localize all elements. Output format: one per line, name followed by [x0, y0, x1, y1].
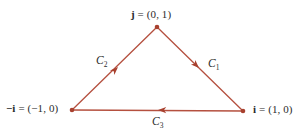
vertex-label-left-value: = (−1, 0) [16, 102, 59, 114]
edge-c1-line [157, 27, 243, 111]
direction-arrowheads [110, 60, 201, 113]
edge-label-c1: C1 [208, 58, 219, 70]
edge-label-c1-subscript: 1 [216, 63, 220, 72]
vertex-label-right-value: = (1, 0) [256, 103, 292, 115]
edge-label-c1-base: C [208, 57, 216, 69]
edge-label-c3-base: C [152, 115, 160, 127]
edge-c3-line [72, 110, 243, 111]
vertex-dot-left [70, 108, 75, 113]
edge-label-c2-base: C [96, 54, 104, 66]
vertex-dot-right [241, 109, 246, 114]
arrowhead-c2-icon [110, 65, 120, 75]
edge-label-c3-subscript: 3 [160, 121, 164, 130]
triangle-contour-figure: j = (0, 1) −i = (−1, 0) i = (1, 0) C1 C2… [0, 0, 306, 133]
vertex-label-right: i = (1, 0) [253, 104, 293, 115]
vertex-label-left: −i = (−1, 0) [6, 103, 58, 114]
vertex-dot-apex [155, 25, 160, 30]
edge-c2-line [72, 27, 157, 110]
vertex-label-apex: j = (0, 1) [131, 9, 171, 20]
edge-label-c3: C3 [152, 116, 163, 128]
vertex-label-apex-value: = (0, 1) [135, 8, 171, 20]
edge-label-c2-subscript: 2 [104, 60, 108, 69]
vertex-label-left-vector: −i [6, 102, 16, 114]
edge-label-c2: C2 [96, 55, 107, 67]
